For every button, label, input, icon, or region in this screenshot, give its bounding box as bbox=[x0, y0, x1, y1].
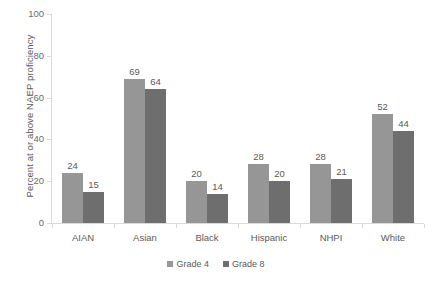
x-axis-label-black: Black bbox=[176, 232, 238, 244]
x-axis-tick-mark bbox=[362, 224, 363, 228]
bar-white-grade-4 bbox=[372, 114, 393, 223]
legend-swatch-icon bbox=[167, 261, 173, 267]
x-axis-label-white: White bbox=[362, 232, 424, 244]
chart-legend: Grade 4Grade 8 bbox=[0, 259, 432, 269]
bar-hispanic-grade-8 bbox=[269, 181, 290, 223]
x-axis-label-aian: AIAN bbox=[52, 232, 114, 244]
y-axis-tick-label: 60 bbox=[4, 93, 44, 103]
bar-black-grade-8 bbox=[207, 194, 228, 223]
y-axis-tick-label: 100 bbox=[4, 9, 44, 19]
bar-chart: Percent at or above NAEP proficiency 020… bbox=[0, 0, 432, 281]
x-axis-tick-mark bbox=[176, 224, 177, 228]
x-axis-tick-mark bbox=[114, 224, 115, 228]
bar-asian-grade-4 bbox=[124, 79, 145, 223]
x-axis-tick-mark bbox=[238, 224, 239, 228]
bar-asian-grade-8 bbox=[145, 89, 166, 223]
y-axis-title: Percent at or above NAEP proficiency bbox=[21, 4, 39, 228]
bar-value-label: 64 bbox=[139, 76, 172, 87]
bar-value-label: 28 bbox=[242, 151, 275, 162]
x-axis-tick-mark bbox=[300, 224, 301, 228]
x-axis-tick-mark bbox=[424, 224, 425, 228]
plot-area: 241569642014282028215244 bbox=[52, 14, 424, 223]
x-axis-label-nhpi: NHPI bbox=[300, 232, 362, 244]
legend-item-grade-8[interactable]: Grade 8 bbox=[223, 259, 265, 269]
bar-value-label: 20 bbox=[180, 168, 213, 179]
x-axis-tick-mark bbox=[52, 224, 53, 228]
legend-item-grade-4[interactable]: Grade 4 bbox=[167, 259, 209, 269]
legend-swatch-icon bbox=[223, 261, 229, 267]
bar-value-label: 15 bbox=[77, 179, 110, 190]
bar-value-label: 21 bbox=[325, 166, 358, 177]
bar-white-grade-8 bbox=[393, 131, 414, 223]
bar-value-label: 44 bbox=[387, 118, 420, 129]
legend-label: Grade 4 bbox=[176, 259, 209, 269]
x-axis-label-hispanic: Hispanic bbox=[238, 232, 300, 244]
y-axis-tick-label: 40 bbox=[4, 134, 44, 144]
x-axis-label-asian: Asian bbox=[114, 232, 176, 244]
y-axis-tick-label: 0 bbox=[4, 218, 44, 228]
bar-aian-grade-8 bbox=[83, 192, 104, 223]
bar-value-label: 24 bbox=[56, 160, 89, 171]
y-axis-tick-label: 80 bbox=[4, 51, 44, 61]
bar-value-label: 52 bbox=[366, 101, 399, 112]
bar-value-label: 28 bbox=[304, 151, 337, 162]
bar-value-label: 69 bbox=[118, 66, 151, 77]
bar-nhpi-grade-8 bbox=[331, 179, 352, 223]
legend-label: Grade 8 bbox=[232, 259, 265, 269]
bar-value-label: 20 bbox=[263, 168, 296, 179]
y-axis-tick-label: 20 bbox=[4, 176, 44, 186]
bar-value-label: 14 bbox=[201, 181, 234, 192]
